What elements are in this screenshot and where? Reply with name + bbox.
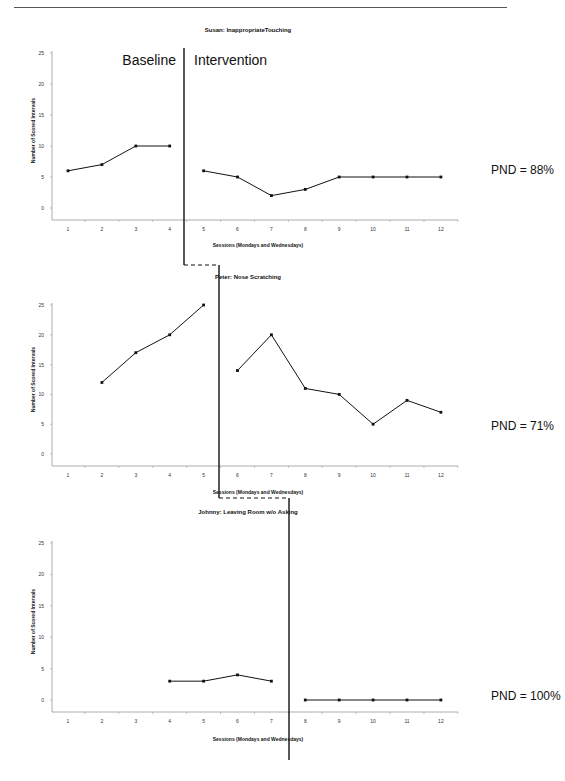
- data-point: [304, 387, 307, 390]
- multiple-baseline-figure: Susan: InappropriateTouching051015202512…: [0, 0, 565, 781]
- panel-1: Susan: InappropriateTouching051015202512…: [30, 27, 554, 248]
- data-point: [236, 673, 239, 676]
- data-point: [304, 188, 307, 191]
- data-point: [338, 176, 341, 179]
- x-tick-label: 2: [101, 472, 104, 478]
- data-point: [338, 393, 341, 396]
- y-tick-label: 5: [41, 421, 44, 427]
- x-tick-label: 1: [67, 718, 70, 724]
- panel-3: Johnny: Leaving Room w/o Asking051015202…: [30, 509, 561, 742]
- data-point: [270, 333, 273, 336]
- y-tick-label: 0: [41, 205, 44, 211]
- y-tick-label: 15: [38, 362, 44, 368]
- data-point: [406, 699, 409, 702]
- x-tick-label: 4: [168, 718, 171, 724]
- x-tick-label: 3: [134, 226, 137, 232]
- data-point: [440, 176, 443, 179]
- x-tick-label: 6: [236, 226, 239, 232]
- data-point: [372, 423, 375, 426]
- x-tick-label: 2: [101, 226, 104, 232]
- data-point: [406, 399, 409, 402]
- data-point: [134, 351, 137, 354]
- y-axis-title: Number of Scored Intervals: [30, 589, 36, 655]
- header-rule: [14, 7, 507, 8]
- x-tick-label: 5: [202, 718, 205, 724]
- x-tick-label: 11: [404, 472, 409, 478]
- series-line-baseline: [170, 675, 272, 681]
- y-tick-label: 25: [38, 50, 44, 56]
- y-tick-label: 15: [38, 603, 44, 609]
- x-axis-title: Sessions (Mondays and Wednesdays): [213, 489, 304, 495]
- y-tick-label: 0: [41, 697, 44, 703]
- data-point: [168, 333, 171, 336]
- data-point: [338, 699, 341, 702]
- data-point: [202, 680, 205, 683]
- x-tick-label: 5: [202, 226, 205, 232]
- x-tick-label: 5: [202, 472, 205, 478]
- x-tick-label: 12: [438, 472, 444, 478]
- data-point: [134, 145, 137, 148]
- y-axis-title: Number of Scored Intervals: [30, 347, 36, 413]
- data-point: [406, 176, 409, 179]
- data-point: [236, 369, 239, 372]
- intervention-label: Intervention: [194, 52, 267, 68]
- x-tick-label: 9: [338, 472, 341, 478]
- x-tick-label: 6: [236, 472, 239, 478]
- x-tick-label: 10: [370, 472, 376, 478]
- y-tick-label: 10: [38, 634, 44, 640]
- data-point: [168, 145, 171, 148]
- x-tick-label: 7: [270, 226, 273, 232]
- x-tick-label: 4: [168, 226, 171, 232]
- data-point: [372, 699, 375, 702]
- data-point: [101, 381, 104, 384]
- data-point: [270, 680, 273, 683]
- y-tick-label: 20: [38, 332, 44, 338]
- series-line-baseline: [102, 305, 204, 382]
- panel-title: Peter: Nose Scratching: [215, 274, 281, 280]
- y-tick-label: 25: [38, 540, 44, 546]
- x-tick-label: 8: [304, 226, 307, 232]
- x-tick-label: 1: [67, 226, 70, 232]
- panel-title: Susan: InappropriateTouching: [205, 27, 292, 33]
- multiple-baseline-chart: Susan: InappropriateTouching051015202512…: [0, 0, 565, 781]
- data-point: [440, 411, 443, 414]
- x-tick-label: 2: [101, 718, 104, 724]
- data-point: [101, 163, 104, 166]
- x-tick-label: 1: [67, 472, 70, 478]
- data-point: [372, 176, 375, 179]
- x-tick-label: 3: [134, 718, 137, 724]
- y-tick-label: 20: [38, 81, 44, 87]
- x-tick-label: 3: [134, 472, 137, 478]
- y-tick-label: 10: [38, 391, 44, 397]
- series-line-intervention: [204, 171, 441, 196]
- x-axis-title: Sessions (Mondays and Wednesdays): [213, 736, 304, 742]
- data-point: [236, 176, 239, 179]
- panel-title: Johnny: Leaving Room w/o Asking: [198, 509, 298, 515]
- pnd-annotation: PND = 71%: [491, 419, 554, 433]
- data-point: [67, 169, 70, 172]
- x-axis-title: Sessions (Mondays and Wednesdays): [213, 242, 304, 248]
- data-point: [168, 680, 171, 683]
- y-tick-label: 20: [38, 571, 44, 577]
- data-point: [304, 699, 307, 702]
- phase-change-line: [184, 48, 289, 760]
- x-tick-label: 6: [236, 718, 239, 724]
- x-tick-label: 7: [270, 472, 273, 478]
- x-tick-label: 8: [304, 718, 307, 724]
- baseline-label: Baseline: [122, 52, 176, 68]
- x-tick-label: 4: [168, 472, 171, 478]
- data-point: [202, 169, 205, 172]
- x-tick-label: 9: [338, 718, 341, 724]
- data-point: [440, 699, 443, 702]
- y-tick-label: 5: [41, 666, 44, 672]
- x-tick-label: 9: [338, 226, 341, 232]
- y-tick-label: 15: [38, 112, 44, 118]
- x-tick-label: 7: [270, 718, 273, 724]
- x-tick-label: 11: [404, 718, 409, 724]
- x-tick-label: 8: [304, 472, 307, 478]
- x-tick-label: 10: [370, 718, 376, 724]
- x-tick-label: 10: [370, 226, 376, 232]
- series-line-baseline: [68, 146, 170, 171]
- y-tick-label: 25: [38, 302, 44, 308]
- data-point: [202, 304, 205, 307]
